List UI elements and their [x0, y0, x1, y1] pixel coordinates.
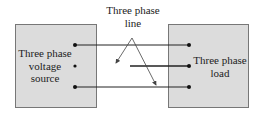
line-label-1: Three phase	[100, 4, 166, 17]
source-label-3: source	[15, 72, 75, 85]
source-label-1: Three phase	[15, 47, 75, 60]
load-label-2: load	[190, 67, 250, 80]
source-label-2: voltage	[15, 60, 75, 73]
load-label-1: Three phase	[190, 54, 250, 67]
source-label: Three phase voltage source	[15, 47, 75, 85]
line-label-2: line	[100, 17, 166, 30]
line-label: Three phase line	[100, 4, 166, 29]
load-label: Three phase load	[190, 54, 250, 79]
